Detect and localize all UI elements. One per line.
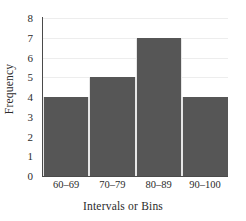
y-axis-tick-label: 0 (28, 171, 34, 182)
x-axis-tick-labels: 60–6970–7980–8990–100 (43, 180, 228, 196)
bar (182, 97, 228, 176)
x-axis-tick-label: 90–100 (189, 180, 221, 191)
y-axis-line (42, 17, 43, 177)
x-axis-title: Intervals or Bins (0, 200, 246, 212)
y-axis-tick-label: 5 (28, 72, 34, 83)
x-axis-tick-label: 70–79 (99, 180, 125, 191)
bar (43, 97, 89, 176)
y-axis-tick-label: 7 (28, 32, 34, 43)
x-axis-tick-label: 80–89 (146, 180, 172, 191)
plot-area (43, 18, 228, 176)
histogram-chart: Frequency 012345678 60–6970–7980–8990–10… (0, 0, 246, 221)
y-axis-title-text: Frequency (3, 64, 15, 114)
bar (136, 38, 182, 176)
y-axis-tick-label: 3 (28, 111, 34, 122)
y-axis-tick-label: 2 (28, 131, 34, 142)
y-axis-tick-label: 6 (28, 52, 34, 63)
y-axis-tick-label: 8 (28, 13, 34, 24)
bar (89, 77, 135, 176)
x-axis-tick-label: 60–69 (53, 180, 79, 191)
y-axis-tick-labels: 012345678 (18, 18, 36, 176)
y-axis-title: Frequency (0, 0, 18, 178)
gridline (43, 18, 228, 19)
x-axis-line (42, 176, 228, 177)
y-axis-tick-label: 1 (28, 151, 34, 162)
y-axis-tick-label: 4 (28, 92, 34, 103)
